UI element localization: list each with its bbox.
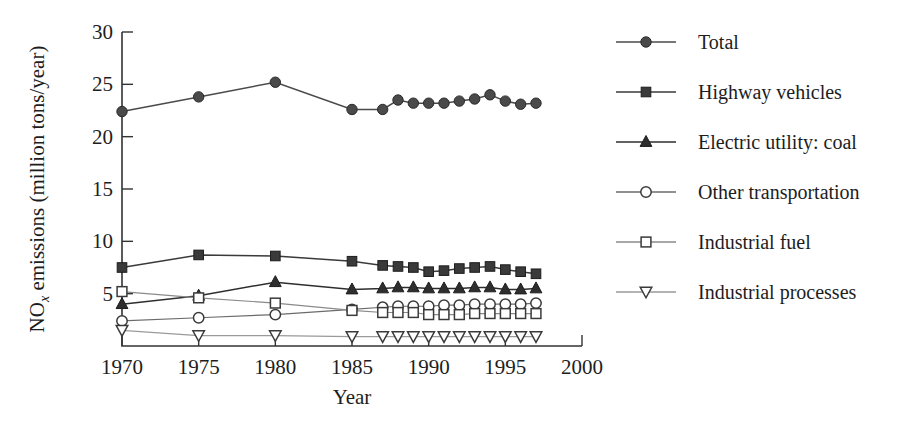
marker-open-circle bbox=[439, 300, 449, 310]
y-axis-title-rest: emissions (million tons/year) bbox=[25, 46, 49, 296]
marker-filled-square bbox=[641, 87, 651, 97]
marker-filled-circle bbox=[515, 99, 525, 109]
marker-open-square bbox=[393, 308, 403, 318]
marker-filled-square bbox=[271, 251, 281, 261]
marker-filled-triangle bbox=[484, 281, 496, 292]
axis-lines bbox=[122, 32, 582, 346]
marker-filled-square bbox=[347, 256, 357, 266]
marker-filled-square bbox=[409, 263, 419, 273]
marker-filled-square bbox=[378, 261, 388, 271]
marker-filled-circle bbox=[408, 98, 418, 108]
nox-emissions-line-chart: 510152025301970197519801985199019952000 … bbox=[0, 0, 907, 426]
y-tick-label: 20 bbox=[92, 125, 113, 149]
series-industrial-processes bbox=[116, 326, 542, 343]
marker-open-circle bbox=[270, 309, 280, 319]
legend-item-label: Industrial fuel bbox=[698, 231, 811, 253]
marker-open-circle bbox=[515, 299, 525, 309]
y-tick-label: 5 bbox=[103, 282, 114, 306]
marker-open-square bbox=[347, 306, 357, 316]
marker-open-square bbox=[194, 293, 204, 303]
marker-filled-circle bbox=[347, 104, 357, 114]
marker-filled-square bbox=[393, 262, 403, 272]
marker-open-circle bbox=[485, 299, 495, 309]
x-tick-label: 1985 bbox=[331, 355, 373, 379]
marker-filled-triangle bbox=[640, 135, 652, 146]
x-tick-label: 1980 bbox=[254, 355, 296, 379]
legend-item-industrial-fuel[interactable]: Industrial fuel bbox=[616, 231, 811, 253]
marker-filled-circle bbox=[193, 92, 203, 102]
axes: 510152025301970197519801985199019952000 bbox=[92, 20, 603, 379]
marker-open-square bbox=[439, 310, 449, 320]
marker-filled-circle bbox=[454, 96, 464, 106]
legend-item-label: Electric utility: coal bbox=[698, 131, 857, 154]
marker-filled-square bbox=[531, 269, 541, 279]
marker-filled-square bbox=[194, 250, 204, 260]
marker-open-circle bbox=[454, 300, 464, 310]
marker-filled-circle bbox=[485, 90, 495, 100]
y-tick-label: 15 bbox=[92, 177, 113, 201]
x-axis-title: Year bbox=[333, 385, 372, 409]
x-tick-label: 2000 bbox=[561, 355, 603, 379]
y-tick-label: 30 bbox=[92, 20, 113, 44]
marker-open-square bbox=[470, 309, 480, 319]
legend-item-total[interactable]: Total bbox=[616, 31, 739, 53]
marker-open-circle bbox=[641, 187, 651, 197]
marker-open-square bbox=[485, 309, 495, 319]
marker-filled-circle bbox=[270, 77, 280, 87]
marker-filled-square bbox=[470, 263, 480, 273]
marker-filled-circle bbox=[641, 37, 651, 47]
marker-filled-square bbox=[439, 266, 449, 276]
series-highway-vehicles bbox=[117, 250, 541, 278]
legend-item-label: Total bbox=[698, 31, 739, 53]
chart-figure: 510152025301970197519801985199019952000 … bbox=[0, 0, 907, 426]
marker-filled-square bbox=[516, 267, 526, 277]
marker-filled-square bbox=[117, 263, 127, 273]
y-axis-title-main: NO bbox=[25, 302, 49, 332]
marker-open-square bbox=[531, 309, 541, 319]
marker-open-square bbox=[516, 309, 526, 319]
legend-item-label: Highway vehicles bbox=[698, 81, 842, 104]
marker-filled-circle bbox=[439, 98, 449, 108]
marker-open-circle bbox=[531, 298, 541, 308]
chart-legend: TotalHighway vehiclesElectric utility: c… bbox=[616, 31, 860, 304]
marker-filled-triangle bbox=[453, 282, 465, 293]
legend-item-highway-vehicles[interactable]: Highway vehicles bbox=[616, 81, 842, 104]
x-tick-label: 1975 bbox=[178, 355, 220, 379]
marker-open-square bbox=[378, 308, 388, 318]
marker-open-square bbox=[500, 309, 510, 319]
marker-open-circle bbox=[469, 299, 479, 309]
data-series-layer bbox=[116, 77, 542, 342]
y-axis-title-text: NOx emissions (million tons/year) bbox=[25, 46, 52, 333]
x-tick-label: 1970 bbox=[101, 355, 143, 379]
legend-item-industrial-processes[interactable]: Industrial processes bbox=[616, 281, 857, 304]
y-axis-title: NOx emissions (million tons/year) bbox=[25, 46, 52, 333]
marker-open-square bbox=[641, 237, 651, 247]
marker-filled-circle bbox=[469, 94, 479, 104]
marker-filled-triangle bbox=[469, 281, 481, 292]
x-tick-label: 1990 bbox=[408, 355, 450, 379]
series-total bbox=[117, 77, 541, 117]
marker-filled-triangle bbox=[438, 282, 450, 293]
marker-open-circle bbox=[193, 313, 203, 323]
marker-filled-triangle bbox=[423, 282, 435, 293]
marker-filled-triangle bbox=[515, 283, 527, 294]
marker-filled-triangle bbox=[269, 276, 281, 287]
marker-open-square bbox=[408, 308, 418, 318]
marker-open-square bbox=[270, 298, 280, 308]
legend-item-other-transportation[interactable]: Other transportation bbox=[616, 181, 860, 204]
marker-open-square bbox=[424, 310, 434, 320]
marker-filled-circle bbox=[423, 98, 433, 108]
x-tick-label: 1995 bbox=[484, 355, 526, 379]
marker-filled-square bbox=[424, 267, 434, 277]
legend-item-electric-utility-coal[interactable]: Electric utility: coal bbox=[616, 131, 857, 154]
marker-filled-circle bbox=[531, 98, 541, 108]
marker-filled-triangle bbox=[377, 282, 389, 293]
marker-filled-square bbox=[485, 262, 495, 272]
marker-filled-square bbox=[501, 265, 511, 275]
marker-filled-triangle bbox=[392, 281, 404, 292]
marker-filled-circle bbox=[500, 96, 510, 106]
marker-open-square bbox=[454, 310, 464, 320]
marker-filled-triangle bbox=[530, 282, 542, 293]
marker-filled-circle bbox=[117, 106, 127, 116]
marker-filled-square bbox=[455, 264, 465, 274]
